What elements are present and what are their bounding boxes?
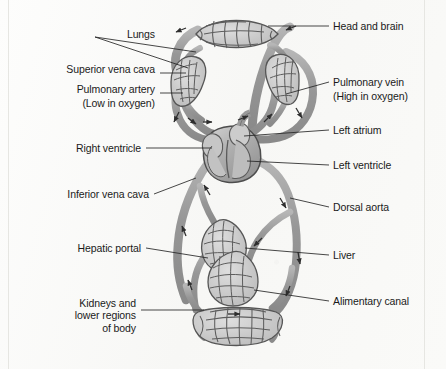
leader-liver xyxy=(245,248,329,255)
head-and-brain-capillaries xyxy=(196,20,278,48)
right-lung-capillaries xyxy=(266,54,299,104)
diagram-canvas xyxy=(0,0,446,369)
flow-arrow xyxy=(280,198,286,208)
leader-dorsal-aorta xyxy=(290,198,329,207)
label-right-ventricle: Right ventricle xyxy=(76,142,141,154)
vessel-hepatic-vein xyxy=(200,186,214,222)
label-kidneys-lower-body: Kidneys and lower regions of body xyxy=(75,297,136,334)
label-head-and-brain: Head and brain xyxy=(333,20,403,32)
label-dorsal-aorta: Dorsal aorta xyxy=(333,201,389,213)
label-pulmonary-artery-note: (Low in oxygen) xyxy=(82,97,155,109)
label-alimentary-canal: Alimentary canal xyxy=(333,295,409,307)
label-liver: Liver xyxy=(333,249,355,261)
label-left-ventricle: Left ventricle xyxy=(333,159,391,171)
label-left-atrium: Left atrium xyxy=(333,124,382,136)
label-inferior-vena-cava: Inferior vena cava xyxy=(67,188,149,200)
label-hepatic-portal: Hepatic portal xyxy=(78,242,141,254)
vessel-mesenteric-artery xyxy=(248,212,290,264)
kidneys-capillaries xyxy=(193,308,282,346)
label-pulmonary-artery: Pulmonary artery xyxy=(77,83,155,95)
label-lungs: Lungs xyxy=(127,28,155,40)
flow-arrow xyxy=(296,108,302,118)
flow-arrow xyxy=(176,28,186,32)
label-pulmonary-vein-note: (High in oxygen) xyxy=(333,90,408,102)
circulatory-system-diagram: Lungs Superior vena cava Pulmonary arter… xyxy=(0,0,446,369)
label-pulmonary-vein: Pulmonary vein xyxy=(333,76,404,88)
label-superior-vena-cava: Superior vena cava xyxy=(66,63,155,75)
